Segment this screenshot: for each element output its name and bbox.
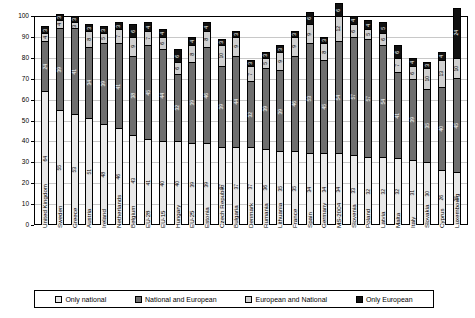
bar-column[interactable]: 393984 xyxy=(185,16,200,225)
bar-segment: 4 xyxy=(42,34,48,42)
stacked-bar[interactable]: 354693 xyxy=(291,31,299,225)
stacked-bar[interactable]: 513483 xyxy=(85,24,93,225)
bar-column[interactable]: 403266 xyxy=(170,16,185,225)
bar-column[interactable]: 325754 xyxy=(361,16,376,225)
bar-segment: 39 xyxy=(101,44,107,125)
stacked-bar[interactable]: 353993 xyxy=(276,45,284,225)
x-axis-label-column: Hungary xyxy=(170,226,185,288)
bar-column[interactable]: 325465 xyxy=(376,16,391,225)
bar-column[interactable]: 414574 xyxy=(141,16,156,225)
stacked-bar[interactable]: 394684 xyxy=(203,22,211,225)
stacked-bar[interactable]: 335764 xyxy=(350,16,358,225)
legend-item[interactable]: Only national xyxy=(55,296,106,303)
stacked-bar[interactable]: 374493 xyxy=(232,31,240,225)
stacked-bar[interactable]: 433896 xyxy=(129,24,137,225)
stacked-bar[interactable]: 393984 xyxy=(188,37,196,225)
bar-segment-value: 5 xyxy=(263,62,268,65)
bar-segment: 3 xyxy=(57,15,63,21)
bar-segment: 39 xyxy=(410,80,416,161)
bar-column[interactable]: 313964 xyxy=(405,16,420,225)
bar-segment-value: 3 xyxy=(278,48,283,51)
bar-segment-value: 6 xyxy=(175,55,180,58)
bar-column[interactable]: 363953 xyxy=(258,16,273,225)
bar-column[interactable]: 345396 xyxy=(302,16,317,225)
bar-segment-value: 7 xyxy=(248,73,253,76)
stacked-bar[interactable]: 25451024 xyxy=(453,8,461,225)
bar-segment-value: 44 xyxy=(160,93,165,98)
stacked-bar[interactable]: 404464 xyxy=(159,29,167,225)
bar-column[interactable]: 553943 xyxy=(53,16,68,225)
bar-segment-value: 6 xyxy=(336,9,341,12)
y-axis-tick-label: 10 xyxy=(22,201,29,208)
bar-segment-value: 5 xyxy=(366,33,371,36)
bar-column[interactable]: 534133 xyxy=(67,16,82,225)
bar-segment: 6 xyxy=(380,34,386,46)
bar-segment: 53 xyxy=(307,44,313,154)
stacked-bar[interactable]: 363953 xyxy=(262,52,270,225)
bar-segment-value: 40 xyxy=(175,181,180,186)
bar-column[interactable]: 3035103 xyxy=(420,16,435,225)
stacked-bar[interactable]: 373273 xyxy=(247,60,255,225)
stacked-bar[interactable]: 553943 xyxy=(56,14,64,225)
bar-column[interactable]: 374493 xyxy=(229,16,244,225)
stacked-bar[interactable]: 2640134 xyxy=(438,52,446,225)
bar-segment-value: 3 xyxy=(57,16,62,19)
bar-segment-value: 46 xyxy=(204,93,209,98)
bar-segment-value: 35 xyxy=(425,123,430,128)
stacked-bar[interactable]: 324176 xyxy=(394,45,402,225)
bar-segment-value: 54 xyxy=(381,99,386,104)
bar-segment-value: 39 xyxy=(101,81,106,86)
bar-segment-value: 39 xyxy=(190,182,195,187)
legend-swatch-icon xyxy=(356,296,363,303)
stacked-bar[interactable]: 414574 xyxy=(144,22,152,225)
bar-column[interactable]: 483953 xyxy=(97,16,112,225)
bar-column[interactable]: 394684 xyxy=(200,16,215,225)
bar-column[interactable]: 373273 xyxy=(244,16,259,225)
bar-column[interactable]: 353993 xyxy=(273,16,288,225)
stacked-bar[interactable]: 534133 xyxy=(71,16,79,225)
bar-segment: 4 xyxy=(160,30,166,38)
stacked-bar[interactable]: 325465 xyxy=(379,22,387,225)
x-axis-tick-label: Germany xyxy=(321,203,327,228)
stacked-bar[interactable]: 3454126 xyxy=(335,3,343,225)
x-axis-tick-label: Estonia xyxy=(204,207,210,228)
bar-segment-value: 3 xyxy=(292,33,297,36)
bar-column[interactable]: 354693 xyxy=(288,16,303,225)
bar-column[interactable]: 513483 xyxy=(82,16,97,225)
bar-segment-value: 35 xyxy=(292,186,297,191)
legend-item[interactable]: European and National xyxy=(245,296,327,303)
stacked-bar[interactable]: 3035103 xyxy=(423,62,431,225)
stacked-bar[interactable]: 345396 xyxy=(306,12,314,225)
stacked-bar[interactable]: 313964 xyxy=(409,58,417,225)
bar-segment-value: 3 xyxy=(219,41,224,44)
bar-column[interactable]: 2640134 xyxy=(435,16,450,225)
bar-segment: 3 xyxy=(116,23,122,29)
stacked-bar[interactable]: 344583 xyxy=(320,37,328,225)
bar-segment-value: 24 xyxy=(43,64,48,69)
bar-column[interactable]: 344583 xyxy=(317,16,332,225)
legend-item[interactable]: National and European xyxy=(135,296,217,303)
bar-column[interactable]: 324176 xyxy=(391,16,406,225)
bar-segment-value: 4 xyxy=(204,26,209,29)
stacked-bar[interactable]: 403266 xyxy=(174,49,182,225)
bar-segment: 6 xyxy=(395,46,401,58)
stacked-bar[interactable]: 325754 xyxy=(364,20,372,225)
bar-segment: 3 xyxy=(219,40,225,46)
bar-segment-value: 45 xyxy=(454,123,459,128)
x-axis-tick-label: Rumania xyxy=(263,203,269,228)
x-axis-label-column: Lithuania xyxy=(273,226,288,288)
legend-item[interactable]: Only European xyxy=(356,296,413,303)
bar-segment: 5 xyxy=(101,34,107,44)
bar-column[interactable]: 433896 xyxy=(126,16,141,225)
legend-swatch-icon xyxy=(55,296,62,303)
bar-segment: 3 xyxy=(321,38,327,44)
bar-column[interactable]: 404464 xyxy=(156,16,171,225)
bar-segment: 9 xyxy=(277,53,283,72)
stacked-bar[interactable]: 483953 xyxy=(100,26,108,225)
bar-segment: 41 xyxy=(395,73,401,158)
bar-column[interactable]: 3454126 xyxy=(332,16,347,225)
bar-segment: 32 xyxy=(175,75,181,142)
bar-segment-value: 10 xyxy=(425,76,430,81)
bar-column[interactable]: 335764 xyxy=(346,16,361,225)
bar-segment: 4 xyxy=(351,17,357,25)
